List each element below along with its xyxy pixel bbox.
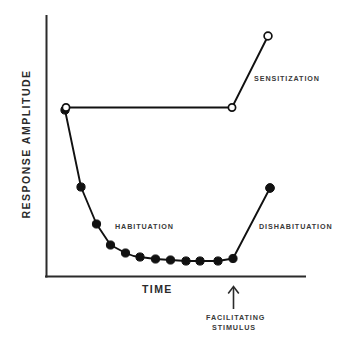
habituation-point — [106, 241, 114, 249]
habituation-point — [166, 256, 174, 264]
sensitization-point — [62, 104, 69, 111]
chart-figure: SENSITIZATION HABITUATION DISHABITUATION… — [0, 0, 351, 349]
habituation-point — [182, 257, 190, 265]
habituation-point — [151, 255, 159, 263]
sensitization-point — [264, 32, 272, 40]
annotation-stimulus-line-1: FACILITATING — [206, 313, 262, 323]
habituation-line — [65, 110, 270, 261]
annotation-sensitization: SENSITIZATION — [254, 74, 320, 84]
sensitization-line — [66, 36, 268, 108]
habituation-point — [121, 249, 129, 257]
dishabituation-point — [266, 184, 275, 193]
chart-canvas — [0, 0, 351, 349]
annotation-dishabituation: DISHABITUATION — [259, 222, 333, 232]
x-axis-label: TIME — [142, 283, 173, 295]
habituation-point — [77, 183, 85, 191]
up-arrow-icon — [228, 287, 239, 310]
sensitization-point — [228, 104, 235, 111]
y-axis-label: RESPONSE AMPLITUDE — [20, 54, 32, 234]
habituation-point — [214, 257, 222, 265]
habituation-point — [136, 253, 144, 261]
habituation-point — [229, 254, 237, 262]
annotation-stimulus-line-2: STIMULUS — [206, 323, 262, 333]
habituation-point — [92, 220, 100, 228]
annotation-habituation: HABITUATION — [115, 222, 174, 232]
habituation-point — [196, 257, 204, 265]
annotation-facilitating-stimulus: FACILITATING STIMULUS — [206, 313, 262, 332]
